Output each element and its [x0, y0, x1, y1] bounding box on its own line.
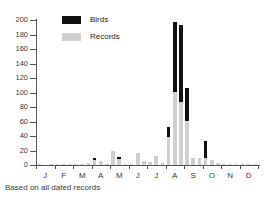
bar-column — [93, 20, 97, 165]
bar-segment-records — [148, 162, 152, 165]
y-axis-label: 120 — [0, 74, 28, 82]
bar-column — [74, 20, 78, 165]
bar-segment-records — [142, 161, 146, 165]
bar-column — [228, 20, 232, 165]
x-axis-month-label: J — [131, 171, 145, 181]
bar-column — [235, 20, 239, 165]
bar-column — [241, 20, 245, 165]
x-axis-tick — [221, 165, 222, 169]
bar-column — [167, 20, 171, 165]
bar-segment-records — [68, 164, 72, 165]
bar-column — [136, 20, 140, 165]
x-axis-month-label: M — [75, 171, 89, 181]
bar-column — [216, 20, 220, 165]
bar-segment-records — [111, 151, 115, 165]
bar-column — [142, 20, 146, 165]
x-axis-line — [36, 165, 260, 166]
bar-column — [173, 20, 177, 165]
bar-segment-birds — [185, 88, 189, 121]
bar-segment-birds — [179, 25, 183, 102]
bar-segment-records — [87, 163, 91, 165]
bar-column — [117, 20, 121, 165]
bar-segment-records — [154, 156, 158, 165]
y-axis-label: 0 — [0, 161, 28, 169]
bar-column — [154, 20, 158, 165]
x-axis-month-label: N — [223, 171, 237, 181]
bar-column — [222, 20, 226, 165]
bar-column — [111, 20, 115, 165]
bar-segment-records — [185, 121, 189, 165]
bar-segment-records — [80, 164, 84, 165]
x-axis-tick — [166, 165, 167, 169]
bar-segment-records — [117, 159, 121, 165]
bar-column — [124, 20, 128, 165]
x-axis-month-label: J — [149, 171, 163, 181]
x-axis-month-label: D — [242, 171, 256, 181]
bar-column — [50, 20, 54, 165]
bar-segment-birds — [93, 158, 97, 160]
bar-segment-records — [241, 164, 245, 165]
bar-segment-records — [222, 164, 226, 165]
bar-column — [37, 20, 41, 165]
bar-segment-records — [93, 160, 97, 165]
x-axis-tick — [55, 165, 56, 169]
bar-segment-records — [37, 164, 41, 165]
x-axis-tick — [110, 165, 111, 169]
bar-column — [105, 20, 109, 165]
x-axis-month-label: A — [168, 171, 182, 181]
bar-segment-records — [247, 164, 251, 165]
x-axis-month-label: O — [205, 171, 219, 181]
bar-segment-birds — [167, 127, 171, 136]
x-axis-tick — [184, 165, 185, 169]
y-axis-label: 80 — [0, 103, 28, 111]
y-axis-label: 200 — [0, 16, 28, 24]
x-axis-month-label: M — [112, 171, 126, 181]
x-axis-tick — [36, 165, 37, 169]
x-axis-tick — [147, 165, 148, 169]
bar-segment-records — [56, 164, 60, 165]
bar-segment-records — [130, 164, 134, 165]
bar-segment-records — [235, 164, 239, 165]
bar-segment-records — [161, 163, 165, 165]
bar-column — [99, 20, 103, 165]
bar-column — [210, 20, 214, 165]
bar-segment-records — [173, 92, 177, 165]
x-axis-tick — [92, 165, 93, 169]
chart-caption: Based on all dated records — [5, 183, 100, 193]
bar-segment-records — [210, 160, 214, 165]
bar-column — [253, 20, 257, 165]
y-axis-label: 20 — [0, 147, 28, 155]
bar-segment-records — [216, 163, 220, 165]
x-axis-month-label: J — [38, 171, 52, 181]
y-axis-label: 40 — [0, 132, 28, 140]
y-axis-label: 160 — [0, 45, 28, 53]
bar-segment-records — [204, 158, 208, 165]
bar-segment-birds — [204, 141, 208, 158]
x-axis-tick — [258, 165, 259, 169]
bar-segment-records — [167, 137, 171, 165]
bar-segment-records — [198, 158, 202, 165]
y-axis-label: 100 — [0, 89, 28, 97]
plot-area — [36, 20, 258, 165]
bar-column — [247, 20, 251, 165]
bar-column — [130, 20, 134, 165]
bar-column — [204, 20, 208, 165]
bar-segment-birds — [173, 22, 177, 92]
bar-column — [179, 20, 183, 165]
bar-column — [80, 20, 84, 165]
bar-segment-records — [74, 164, 78, 165]
bar-segment-records — [253, 164, 257, 165]
x-axis-month-label: F — [57, 171, 71, 181]
x-axis-month-label: A — [94, 171, 108, 181]
bar-column — [56, 20, 60, 165]
x-axis-tick — [73, 165, 74, 169]
x-axis-tick — [129, 165, 130, 169]
bar-segment-records — [124, 164, 128, 165]
bar-segment-birds — [117, 157, 121, 159]
bar-segment-records — [62, 164, 66, 165]
bar-column — [161, 20, 165, 165]
bar-column — [198, 20, 202, 165]
y-axis-label: 140 — [0, 60, 28, 68]
bar-column — [148, 20, 152, 165]
bar-segment-records — [228, 164, 232, 165]
